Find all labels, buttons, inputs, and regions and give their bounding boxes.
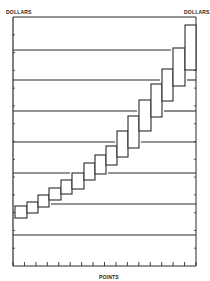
range-box xyxy=(95,155,106,174)
range-box xyxy=(49,188,61,200)
range-box xyxy=(61,180,72,194)
range-box xyxy=(38,195,49,207)
range-box xyxy=(128,116,139,148)
range-box xyxy=(72,173,84,189)
range-box xyxy=(139,100,151,131)
staircase-range-chart xyxy=(0,0,210,281)
range-box xyxy=(151,84,162,117)
range-box xyxy=(106,146,117,165)
range-box xyxy=(27,202,38,213)
range-box xyxy=(117,131,128,157)
range-box xyxy=(173,48,185,86)
range-box xyxy=(15,206,27,218)
price-range-boxes xyxy=(15,25,196,218)
range-box xyxy=(162,69,173,101)
range-box xyxy=(84,163,95,180)
range-box xyxy=(185,25,196,70)
